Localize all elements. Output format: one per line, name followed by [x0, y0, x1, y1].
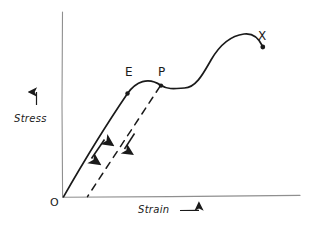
origin-label: O — [50, 196, 59, 209]
point-label-X: X — [258, 29, 266, 43]
x-axis-label: Strain — [138, 204, 169, 215]
point-label-E: E — [125, 65, 133, 79]
unloading-line — [88, 86, 161, 196]
point-label-P: P — [158, 65, 165, 79]
x-axis-line — [63, 195, 300, 197]
down-arrow-icon — [125, 134, 135, 150]
y-axis-label: Stress — [14, 113, 47, 124]
stress-strain-diagram: Stress Strain O E P X — [0, 0, 309, 227]
y-axis-line — [62, 12, 63, 197]
stress-strain-curve — [64, 34, 263, 197]
elastic-limit-point — [125, 91, 129, 95]
fracture-point — [260, 45, 265, 50]
double-headed-arrow-icon — [92, 140, 105, 159]
yield-point — [159, 83, 163, 87]
